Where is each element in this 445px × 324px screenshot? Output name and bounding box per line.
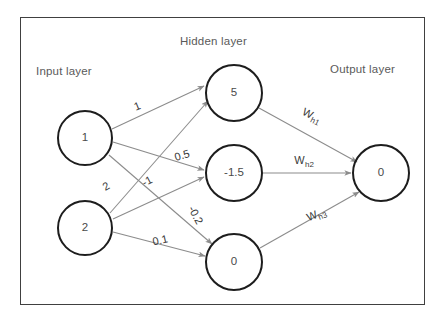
node-input-i1[interactable]: 1	[57, 110, 113, 166]
edge-e-i2-h1	[110, 101, 208, 213]
node-value: 0	[378, 167, 384, 179]
node-hidden-h3[interactable]: 0	[205, 233, 263, 291]
edge-e-i1-h3	[109, 155, 212, 244]
layer-title-hidden: Hidden layer	[180, 35, 247, 47]
layer-title-input: Input layer	[36, 65, 92, 77]
node-value: -1.5	[224, 167, 244, 179]
node-output-o1[interactable]: 0	[352, 144, 410, 202]
node-value: 2	[82, 222, 88, 234]
edge-label-w-h2-o1: Wh2	[294, 154, 313, 166]
diagram-canvas: Input layer Hidden layer Output layer 12…	[0, 0, 445, 324]
node-value: 0	[231, 256, 237, 268]
node-value: 1	[82, 132, 88, 144]
layer-title-output: Output layer	[330, 63, 395, 75]
node-hidden-h1[interactable]: 5	[205, 64, 263, 122]
edge-label-text: W	[294, 154, 304, 166]
edge-e-i1-h1	[112, 86, 204, 129]
node-input-i2[interactable]: 2	[57, 200, 113, 256]
node-hidden-h2[interactable]: -1.5	[205, 144, 263, 202]
edge-label-subscript: h2	[305, 160, 314, 169]
node-value: 5	[231, 87, 237, 99]
